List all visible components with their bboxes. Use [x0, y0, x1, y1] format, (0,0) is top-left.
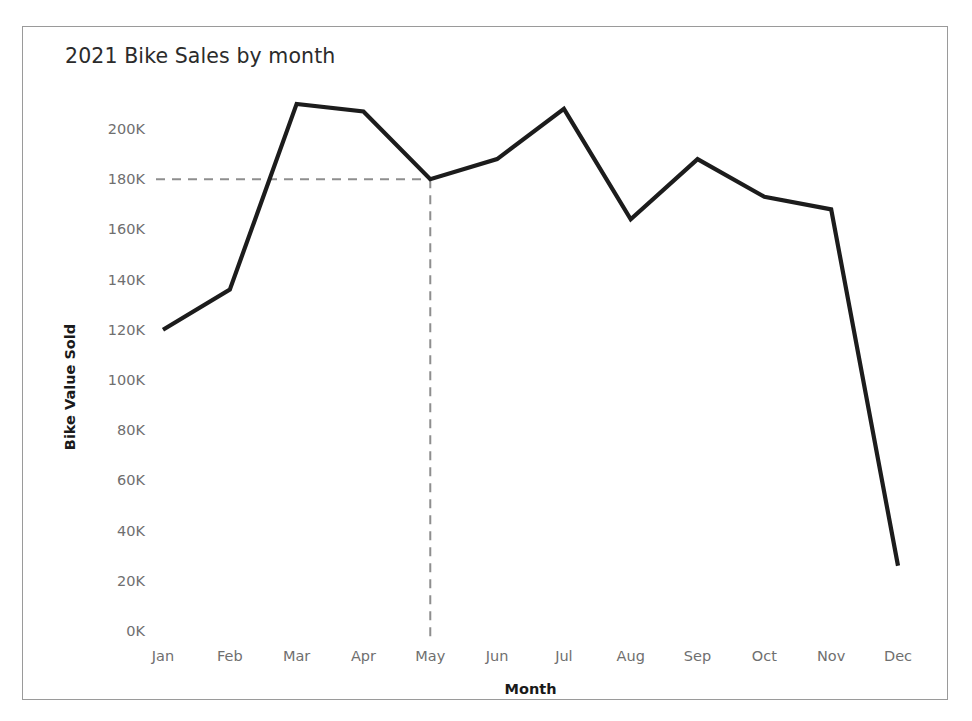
chart-container: 2021 Bike Sales by month 0K20K40K60K80K1…: [22, 26, 948, 700]
y-axis-tick-label: 40K: [117, 523, 145, 539]
y-axis-tick-label: 100K: [108, 372, 146, 388]
x-axis: JanFebMarAprMayJunJulAugSepOctNovDec: [151, 648, 912, 664]
x-axis-tick-label: Jan: [151, 648, 174, 664]
x-axis-tick-label: Dec: [884, 648, 912, 664]
data-series-line: [163, 104, 898, 566]
y-axis-tick-label: 20K: [117, 573, 145, 589]
y-axis-tick-label: 200K: [108, 121, 146, 137]
x-axis-tick-label: Jul: [554, 648, 573, 664]
x-axis-tick-label: May: [415, 648, 445, 664]
y-axis-tick-label: 60K: [117, 472, 145, 488]
x-axis-title: Month: [505, 681, 557, 697]
x-axis-tick-label: Oct: [752, 648, 777, 664]
y-axis: 0K20K40K60K80K100K120K140K160K180K200K: [108, 121, 146, 639]
x-axis-tick-label: Nov: [817, 648, 846, 664]
y-axis-tick-label: 160K: [108, 221, 146, 237]
y-axis-tick-label: 140K: [108, 272, 146, 288]
x-axis-tick-label: Jun: [485, 648, 509, 664]
x-axis-tick-label: Sep: [684, 648, 711, 664]
line-chart-plot: 0K20K40K60K80K100K120K140K160K180K200K J…: [23, 27, 949, 701]
y-axis-tick-label: 0K: [126, 623, 145, 639]
y-axis-tick-label: 180K: [108, 171, 146, 187]
x-axis-tick-label: Mar: [283, 648, 310, 664]
y-axis-tick-label: 80K: [117, 422, 145, 438]
x-axis-tick-label: Feb: [217, 648, 243, 664]
y-axis-tick-label: 120K: [108, 322, 146, 338]
x-axis-tick-label: Apr: [351, 648, 376, 664]
y-axis-title: Bike Value Sold: [62, 324, 78, 450]
x-axis-tick-label: Aug: [617, 648, 645, 664]
reference-lines: [156, 179, 430, 637]
